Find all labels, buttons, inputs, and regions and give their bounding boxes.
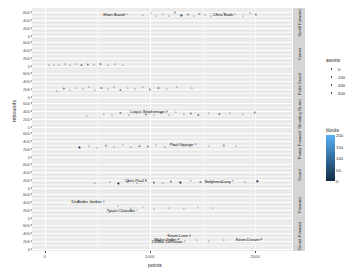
gridline-horizontal	[32, 103, 292, 104]
data-point	[122, 64, 123, 65]
data-point	[242, 113, 243, 114]
x-axis-tick-label: 0	[43, 254, 45, 259]
point-label: Elton Brand	[103, 11, 124, 16]
facet-strip-label: Center	[293, 38, 305, 68]
size-legend-dot	[331, 92, 332, 93]
point-label: Tyson Chandler	[106, 207, 135, 212]
data-point	[76, 63, 77, 64]
facet-strip-text: Small Forward	[297, 10, 302, 37]
gridline-vertical	[45, 160, 46, 190]
y-axis-tick-label: 400	[23, 169, 30, 174]
color-legend: blocks 200150100500	[326, 128, 359, 181]
gridline-vertical	[150, 69, 151, 99]
color-legend-tick-label: 200	[336, 133, 343, 138]
gridline-vertical-minor	[203, 8, 204, 38]
color-legend-tick-label: 100	[336, 156, 343, 161]
y-axis-tick-label: 400	[23, 200, 30, 205]
data-point	[142, 206, 143, 207]
gridline-horizontal	[32, 58, 292, 59]
data-point	[88, 86, 89, 87]
point-label: Paul George	[170, 141, 193, 146]
y-axis-tick-label: 600	[23, 40, 30, 45]
facet-6: 0200400600DeAndre JordanTyson ChandlerFo…	[32, 190, 305, 220]
gridline-vertical	[45, 221, 46, 251]
facet-strip-label: Forward	[293, 190, 305, 220]
gridline-horizontal	[32, 249, 292, 250]
data-point	[183, 208, 184, 209]
facet-3: 0200400600Lance StephensonShooting Guard	[32, 99, 305, 129]
gridline-horizontal	[32, 89, 292, 90]
gridline-horizontal	[32, 172, 292, 173]
data-point	[120, 113, 121, 114]
gridline-horizontal	[32, 127, 292, 128]
y-axis-tick-label: 200	[23, 25, 30, 30]
size-legend-label: 600	[338, 91, 345, 96]
gridline-horizontal-minor	[32, 245, 292, 246]
facet-2: 0200400600Point Guard	[32, 69, 305, 99]
data-point	[244, 181, 245, 182]
gridline-vertical	[150, 160, 151, 190]
facet-panel-column: 0200400600Elton BrandChris BoshSmall For…	[32, 8, 305, 251]
x-axis: 010002000	[32, 251, 292, 262]
size-legend: assists 0200400600	[326, 58, 359, 97]
gridline-horizontal-minor	[32, 93, 292, 94]
gridline-horizontal	[32, 180, 292, 181]
size-legend-title: assists	[326, 58, 359, 63]
size-legend-label: 200	[338, 75, 345, 80]
y-axis-tick-label: 400	[23, 139, 30, 144]
y-axis-tick-label: 400	[23, 109, 30, 114]
gridline-horizontal	[32, 97, 292, 98]
y-axis-label: rebounds	[11, 81, 17, 141]
gridline-vertical-minor	[97, 190, 98, 220]
gridline-horizontal	[32, 36, 292, 37]
x-axis-tick-label: 2000	[250, 254, 260, 259]
point-label: Stephen Curry	[205, 178, 231, 183]
data-point	[168, 207, 169, 208]
gridline-horizontal	[32, 81, 292, 82]
gridline-horizontal	[32, 42, 292, 43]
gridline-vertical-minor	[255, 38, 256, 68]
data-point	[229, 113, 230, 114]
y-axis-tick-label: 600	[23, 70, 30, 75]
gridline-horizontal-minor	[32, 32, 292, 33]
y-axis-tick-label: 200	[23, 86, 30, 91]
gridline-vertical-minor	[255, 160, 256, 190]
gridline-horizontal-minor	[32, 145, 292, 146]
color-legend-tick-label: 50	[336, 167, 341, 172]
gridline-horizontal-minor	[32, 85, 292, 86]
data-point	[54, 64, 55, 65]
color-legend-bar: 200150100500	[326, 135, 335, 181]
gridline-horizontal-minor	[32, 24, 292, 25]
data-point	[261, 238, 262, 239]
gridline-vertical-minor	[203, 99, 204, 129]
gridline-horizontal-minor	[32, 206, 292, 207]
data-point	[198, 206, 199, 207]
gridline-horizontal-minor	[32, 229, 292, 230]
data-point	[94, 64, 95, 65]
facet-5: 0200400600Chris PaulStephen CurryGuard	[32, 160, 305, 190]
gridline-horizontal	[32, 50, 292, 51]
facet-0: 0200400600Elton BrandChris BoshSmall For…	[32, 8, 305, 38]
point-label: Lance Stephenson	[130, 109, 164, 114]
y-axis-tick-label: 200	[23, 117, 30, 122]
gridline-vertical	[150, 221, 151, 251]
gridline-vertical	[150, 130, 151, 160]
facet-strip-text: Point Guard	[297, 73, 302, 95]
data-point	[177, 86, 178, 87]
facet-strip-text: Center	[297, 47, 302, 60]
size-legend-key	[326, 92, 337, 93]
data-point	[69, 64, 70, 65]
facet-strip-text: Forward	[297, 198, 302, 213]
gridline-vertical	[45, 130, 46, 160]
plot-panel: Elton BrandChris Bosh	[32, 8, 292, 38]
facet-7: 0200400600Kevin LoveBlake GriffinDeMar D…	[32, 221, 305, 251]
gridline-vertical-minor	[255, 69, 256, 99]
gridline-vertical-minor	[97, 38, 98, 68]
data-point	[190, 113, 191, 114]
gridline-horizontal	[32, 233, 292, 234]
size-legend-item: 200	[326, 73, 359, 81]
gridline-horizontal-minor	[32, 115, 292, 116]
gridline-horizontal	[32, 210, 292, 211]
y-axis-tick-label: 200	[23, 147, 30, 152]
data-point	[109, 181, 110, 182]
